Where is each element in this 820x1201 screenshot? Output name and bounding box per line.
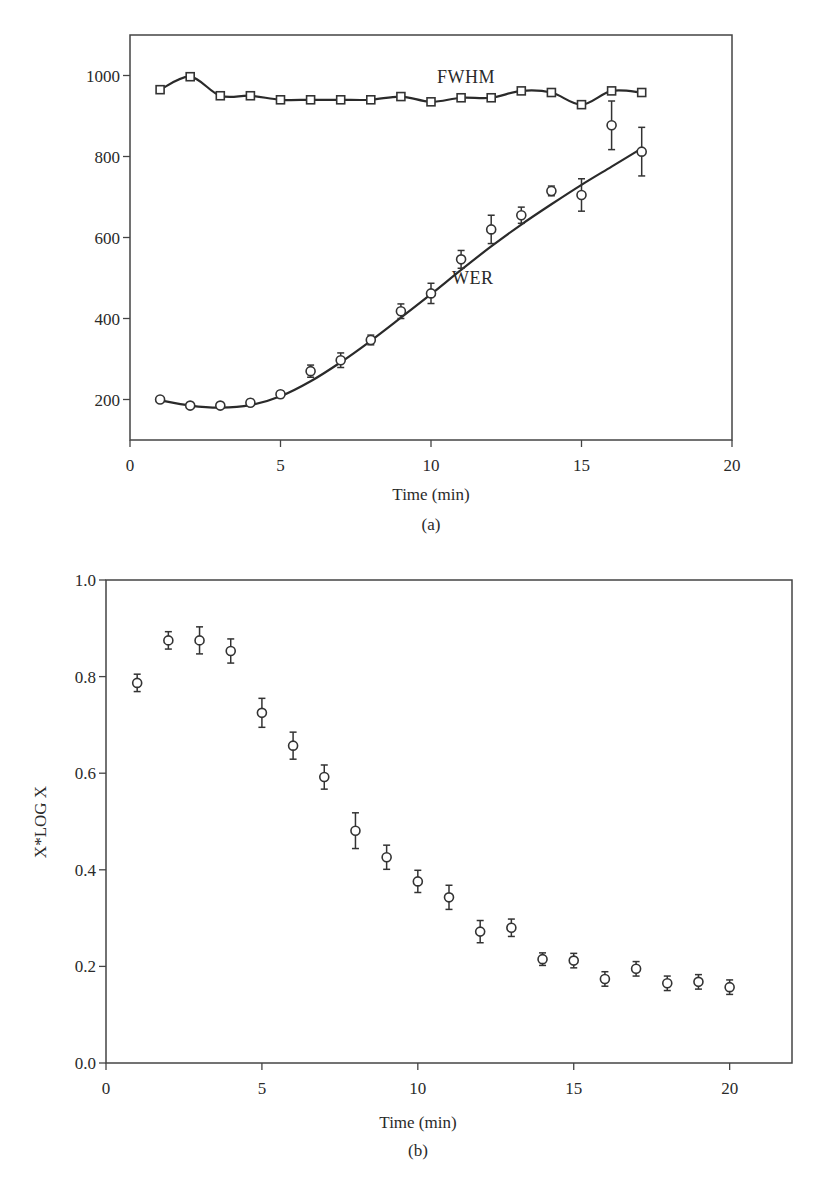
chart-a-x-axis: 05101520 bbox=[126, 440, 741, 475]
x-tick-label: 0 bbox=[126, 456, 135, 475]
data-point bbox=[632, 964, 641, 973]
data-point bbox=[427, 98, 435, 106]
y-tick-label: 200 bbox=[95, 391, 121, 410]
data-point bbox=[336, 356, 345, 365]
x-tick-label: 20 bbox=[721, 1079, 738, 1098]
data-point bbox=[457, 255, 466, 264]
data-point bbox=[487, 94, 495, 102]
y-tick-label: 0.2 bbox=[75, 957, 96, 976]
chart-b-x-axis-title: Time (min) bbox=[379, 1113, 456, 1132]
data-point bbox=[216, 401, 225, 410]
wer-annotation: WER bbox=[452, 268, 494, 288]
data-point bbox=[277, 96, 285, 104]
data-point bbox=[186, 73, 194, 81]
data-point bbox=[577, 190, 586, 199]
chart-b-y-axis-title: X*LOG X bbox=[31, 786, 50, 858]
y-tick-label: 800 bbox=[95, 148, 121, 167]
chart-a-y-axis: 2004006008001000 bbox=[86, 67, 130, 410]
chart-a-panel-label: (a) bbox=[422, 515, 441, 534]
data-point bbox=[600, 974, 609, 983]
figure-canvas: 2004006008001000 05101520 FWHM WER Time … bbox=[0, 0, 820, 1201]
data-point bbox=[725, 983, 734, 992]
data-point bbox=[382, 853, 391, 862]
data-point bbox=[608, 87, 616, 95]
x-tick-label: 15 bbox=[573, 456, 590, 475]
data-point bbox=[578, 101, 586, 109]
x-tick-label: 5 bbox=[258, 1079, 267, 1098]
data-point bbox=[413, 877, 422, 886]
data-point bbox=[663, 979, 672, 988]
y-tick-label: 0.4 bbox=[75, 861, 97, 880]
y-tick-label: 0.8 bbox=[75, 668, 96, 687]
chart-b-x-axis: 05101520 bbox=[102, 1063, 738, 1098]
y-tick-label: 1.0 bbox=[75, 571, 96, 590]
xlogx-markers bbox=[133, 627, 734, 995]
data-point bbox=[476, 927, 485, 936]
y-tick-label: 400 bbox=[95, 310, 121, 329]
x-tick-label: 20 bbox=[724, 456, 741, 475]
y-tick-label: 1000 bbox=[86, 67, 120, 86]
data-point bbox=[457, 94, 465, 102]
data-point bbox=[257, 708, 266, 717]
data-point bbox=[337, 96, 345, 104]
data-point bbox=[487, 225, 496, 234]
data-point bbox=[156, 86, 164, 94]
data-point bbox=[133, 678, 142, 687]
data-point bbox=[195, 636, 204, 645]
y-tick-label: 600 bbox=[95, 229, 121, 248]
data-point bbox=[351, 826, 360, 835]
data-point bbox=[637, 147, 646, 156]
data-point bbox=[306, 367, 315, 376]
data-point bbox=[507, 923, 516, 932]
data-point bbox=[276, 390, 285, 399]
data-point bbox=[538, 955, 547, 964]
data-point bbox=[517, 87, 525, 95]
data-point bbox=[246, 92, 254, 100]
data-point bbox=[569, 956, 578, 965]
x-tick-label: 10 bbox=[409, 1079, 426, 1098]
data-point bbox=[694, 977, 703, 986]
x-tick-label: 15 bbox=[565, 1079, 582, 1098]
data-point bbox=[547, 89, 555, 97]
data-point bbox=[427, 289, 436, 298]
data-point bbox=[246, 398, 255, 407]
chart-b-xlogx: 0.00.20.40.60.81.0 05101520 X*LOG X Time… bbox=[31, 571, 792, 1160]
x-tick-label: 0 bbox=[102, 1079, 111, 1098]
chart-a-fwhm-wer: 2004006008001000 05101520 FWHM WER Time … bbox=[86, 35, 741, 534]
fwhm-annotation: FWHM bbox=[437, 67, 495, 87]
x-tick-label: 10 bbox=[423, 456, 440, 475]
chart-a-x-axis-title: Time (min) bbox=[392, 485, 469, 504]
data-point bbox=[367, 96, 375, 104]
data-point bbox=[397, 93, 405, 101]
data-point bbox=[320, 773, 329, 782]
wer-fit-curve bbox=[160, 148, 642, 407]
chart-b-plot-frame bbox=[106, 580, 792, 1063]
data-point bbox=[156, 395, 165, 404]
x-tick-label: 5 bbox=[276, 456, 285, 475]
data-point bbox=[517, 211, 526, 220]
chart-b-panel-label: (b) bbox=[408, 1141, 428, 1160]
data-point bbox=[289, 741, 298, 750]
wer-markers bbox=[156, 101, 647, 410]
y-tick-label: 0.6 bbox=[75, 764, 96, 783]
data-point bbox=[607, 121, 616, 130]
chart-b-y-axis: 0.00.20.40.60.81.0 bbox=[75, 571, 106, 1073]
data-point bbox=[186, 401, 195, 410]
data-point bbox=[216, 92, 224, 100]
data-point bbox=[307, 96, 315, 104]
data-point bbox=[547, 186, 556, 195]
data-point bbox=[445, 893, 454, 902]
data-point bbox=[164, 636, 173, 645]
data-point bbox=[366, 335, 375, 344]
data-point bbox=[396, 307, 405, 316]
y-tick-label: 0.0 bbox=[75, 1054, 96, 1073]
data-point bbox=[226, 647, 235, 656]
data-point bbox=[638, 89, 646, 97]
